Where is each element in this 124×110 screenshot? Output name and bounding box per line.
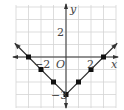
origin-label: O: [56, 59, 65, 70]
y-tick-neg3: −3: [51, 90, 67, 101]
x-tick-neg2: −2: [34, 59, 50, 70]
y-axis-arrow-icon: [64, 3, 68, 9]
data-point: [76, 80, 81, 85]
data-point: [51, 80, 56, 85]
y-tick-pos2: 2: [57, 27, 64, 38]
data-point: [26, 55, 31, 60]
data-point: [101, 55, 106, 60]
y-axis-arrow-down-icon: [64, 103, 68, 109]
y-axis-label: y: [70, 4, 76, 15]
x-tick-pos2: 2: [87, 59, 94, 70]
x-axis-arrow-left-icon: [12, 55, 18, 59]
x-axis-label: x: [111, 59, 117, 70]
